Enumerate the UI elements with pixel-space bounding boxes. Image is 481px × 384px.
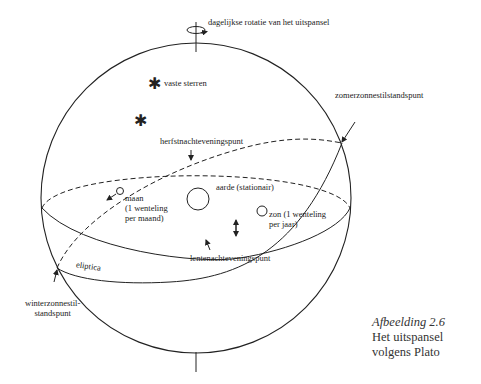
label-sun: zon (1 wenteling per jaar) (269, 209, 326, 229)
caption-line: Het uitspansel (372, 330, 445, 345)
label-fixed-stars: vaste sterren (164, 78, 207, 88)
label-autumn-equinox: herfstnachteveningspunt (160, 136, 243, 146)
caption-title: Afbeelding 2.6 (372, 315, 445, 330)
caption-line: volgens Plato (372, 345, 445, 360)
star-icon: ✱ (148, 74, 161, 93)
label-rotation: dagelijkse rotatie van het uitspansel (208, 17, 329, 27)
label-winter-solstice: winterzonnestil- standspunt (25, 298, 80, 318)
label-moon: maan (1 wenteling per maand) (125, 193, 168, 223)
sphere-outline (41, 43, 351, 353)
earth-icon (187, 188, 209, 210)
label-spring-equinox: lentenachteveningspunt (190, 253, 270, 263)
label-summer-solstice: zomerzonnestilstandspunt (335, 90, 423, 100)
label-earth: aarde (stationair) (216, 182, 274, 192)
sun-icon (257, 206, 267, 216)
figure-caption: Afbeelding 2.6 Het uitspansel volgens Pl… (372, 315, 445, 360)
star-icon: ✱ (134, 111, 147, 130)
equator-back (42, 176, 350, 208)
moon-icon (117, 188, 124, 195)
ecliptic-back (57, 139, 342, 268)
